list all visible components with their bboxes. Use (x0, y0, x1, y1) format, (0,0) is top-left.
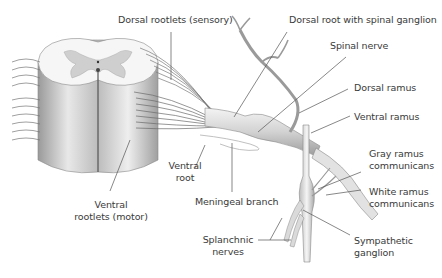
label-sympathetic-ganglion: Sympathetic ganglion (354, 235, 413, 259)
label-spinal-nerve: Spinal nerve (330, 40, 388, 52)
label-splanchnic-line2: nerves (196, 246, 260, 258)
label-ventral-rootlets-line2: rootlets (motor) (66, 211, 156, 223)
label-dorsal-rootlets: Dorsal rootlets (sensory) (118, 14, 233, 26)
spinal-nerve-diagram: Dorsal rootlets (sensory) Dorsal root wi… (0, 0, 442, 278)
label-ventral-rootlets: Ventral rootlets (motor) (66, 199, 156, 223)
label-white-ramus-line2: communicans (369, 198, 434, 210)
label-sympathetic-line1: Sympathetic (354, 235, 413, 247)
label-dorsal-root-ganglion: Dorsal root with spinal ganglion (289, 14, 437, 26)
label-white-ramus-line1: White ramus (369, 186, 434, 198)
spinal-cord (38, 38, 158, 172)
label-sympathetic-line2: ganglion (354, 247, 413, 259)
label-dorsal-ramus: Dorsal ramus (354, 82, 416, 94)
label-white-ramus: White ramus communicans (369, 186, 434, 210)
label-ventral-rootlets-line1: Ventral (66, 199, 156, 211)
left-rootlets (12, 59, 40, 140)
meningeal-branch-nerve (200, 135, 259, 150)
label-ventral-root: Ventral root (160, 160, 210, 184)
label-ventral-root-line1: Ventral (160, 160, 210, 172)
label-splanchnic-nerves: Splanchnic nerves (196, 234, 260, 258)
label-gray-ramus: Gray ramus communicans (369, 148, 434, 172)
label-gray-ramus-line1: Gray ramus (369, 148, 434, 160)
label-splanchnic-line1: Splanchnic (196, 234, 260, 246)
label-meningeal-branch: Meningeal branch (195, 196, 279, 208)
label-ventral-root-line2: root (160, 172, 210, 184)
label-gray-ramus-line2: communicans (369, 160, 434, 172)
label-ventral-ramus: Ventral ramus (354, 111, 419, 123)
